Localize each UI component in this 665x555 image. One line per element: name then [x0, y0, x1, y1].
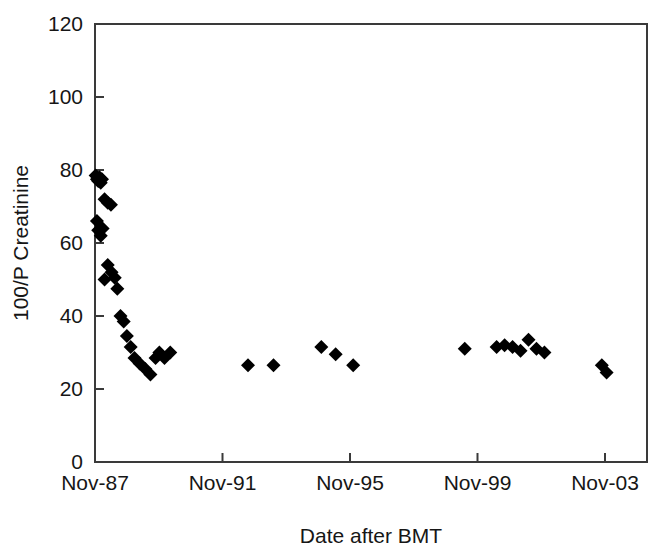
data-point-marker	[329, 347, 343, 361]
y-tick-label: 40	[60, 304, 83, 327]
y-tick-label: 120	[48, 12, 83, 35]
chart-canvas: 020406080100120 Nov-87Nov-91Nov-95Nov-99…	[0, 0, 665, 555]
y-tick-label: 20	[60, 377, 83, 400]
x-axis-tick-labels: Nov-87Nov-91Nov-95Nov-99Nov-03	[61, 471, 639, 494]
x-tick-label: Nov-99	[444, 471, 512, 494]
scatter-data-points	[89, 168, 614, 381]
data-point-marker	[241, 358, 255, 372]
plot-frame	[95, 24, 647, 462]
scatter-chart-figure: 020406080100120 Nov-87Nov-91Nov-95Nov-99…	[0, 0, 665, 555]
x-tick-label: Nov-95	[316, 471, 384, 494]
x-tick-label: Nov-03	[571, 471, 639, 494]
x-tick-label: Nov-87	[61, 471, 129, 494]
data-point-marker	[110, 282, 124, 296]
data-point-marker	[267, 358, 281, 372]
data-point-marker	[124, 340, 138, 354]
axes-box	[95, 24, 647, 462]
y-axis-title: 100/P Creatinine	[9, 165, 32, 321]
y-tick-label: 60	[60, 231, 83, 254]
y-tick-label: 80	[60, 158, 83, 181]
data-point-marker	[522, 333, 536, 347]
y-tick-label: 100	[48, 85, 83, 108]
y-axis-tick-labels: 020406080100120	[48, 12, 83, 473]
y-axis-ticks	[95, 97, 104, 389]
x-axis-title: Date after BMT	[300, 524, 443, 547]
x-axis-ticks	[223, 453, 606, 462]
x-tick-label: Nov-91	[189, 471, 257, 494]
data-point-marker	[346, 358, 360, 372]
y-tick-label: 0	[71, 450, 83, 473]
data-point-marker	[458, 342, 472, 356]
data-point-marker	[120, 329, 134, 343]
data-point-marker	[314, 340, 328, 354]
